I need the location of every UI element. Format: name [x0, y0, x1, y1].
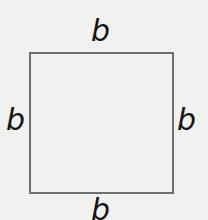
- side-label-top: b: [91, 16, 110, 46]
- side-label-bottom: b: [91, 195, 110, 220]
- square-shape: [29, 52, 174, 194]
- side-label-left: b: [6, 105, 25, 135]
- side-label-right: b: [177, 105, 196, 135]
- diagram-canvas: b b b b: [0, 0, 208, 220]
